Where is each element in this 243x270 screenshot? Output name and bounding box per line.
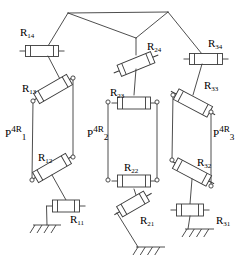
joint-label-R31: R31: [216, 215, 230, 228]
joint-label-R12: R12: [38, 152, 52, 165]
leg3-base-connector: [190, 179, 192, 204]
leg3-parallelogram-joint-3: [209, 184, 213, 188]
leg2-ground-link: [117, 213, 138, 247]
leg3-base-revolute-joint: [171, 204, 210, 216]
joint-label-R23: R23: [110, 87, 124, 100]
joint-label-R32: R32: [197, 157, 211, 170]
leg1-ground-symbol: [30, 225, 61, 233]
joint-label-R22: R22: [124, 162, 138, 175]
leg2-lower-coupler-joint: [112, 175, 157, 187]
ground-hatch: [140, 247, 145, 255]
leg1-base-connector: [52, 175, 66, 200]
leg3-parallelogram-joint-1: [171, 93, 175, 97]
leg3-platform-link: [168, 12, 202, 54]
joint-body: [34, 74, 73, 103]
joint-body: [177, 204, 204, 216]
joint-label-R33: R33: [204, 80, 218, 93]
ground-hatch: [51, 225, 56, 233]
platform-right-edge: [136, 12, 168, 38]
ground-hatch: [189, 229, 194, 237]
leg1-platform-link: [48, 13, 68, 46]
joint-label-R11: R11: [70, 214, 84, 227]
ground-hatch: [30, 225, 35, 233]
joint-body: [173, 89, 212, 117]
leg-label-P2: P4R2: [87, 125, 108, 142]
leg1-parallelogram-joint-4: [30, 178, 34, 182]
joint-label-R34: R34: [208, 38, 222, 51]
leg1-parallelogram-joint-1: [31, 99, 35, 103]
leg1-ground-link: [47, 206, 48, 225]
leg1-top-revolute-joint: [20, 46, 65, 57]
leg3-ground-link: [188, 216, 190, 229]
mechanism-diagram: R14 R13 R12 R11 R24 R23 R22 R21 R34 R33 …: [0, 0, 243, 270]
leg2-parallelogram-joint-2: [155, 100, 159, 104]
ground-hatch: [148, 247, 153, 255]
leg1-upper-connector: [48, 56, 61, 81]
leg-label-P1: P4R1: [5, 125, 26, 142]
ground-hatch: [182, 229, 187, 237]
joint-label-R14: R14: [20, 27, 34, 40]
ground-hatch: [204, 229, 209, 237]
ground-hatch: [37, 225, 42, 233]
leg3-upper-connector: [193, 64, 202, 95]
leg3-ground-symbol: [182, 229, 214, 237]
leg3-parallelogram-joint-4: [170, 158, 174, 162]
joint-label-R24: R24: [147, 41, 161, 54]
platform-top-edge: [68, 12, 168, 13]
leg2-parallelogram-joint-4: [106, 178, 110, 182]
leg2-parallelogram-joint-1: [106, 100, 110, 104]
leg1-base-revolute-joint: [47, 200, 86, 212]
joint-label-R21: R21: [140, 215, 154, 228]
kinematic-diagram-canvas: [0, 0, 243, 270]
leg3-parallelogram-left-link: [172, 95, 173, 160]
leg2-upper-connector: [134, 69, 136, 95]
leg3-top-revolute-joint: [184, 54, 229, 65]
ground-hatch: [133, 247, 138, 255]
leg3-parallelogram-joint-2: [209, 110, 213, 114]
leg1-parallelogram-left-link: [32, 101, 33, 180]
ground-hatch: [197, 229, 202, 237]
leg1-parallelogram-joint-2: [71, 76, 75, 80]
leg1-parallelogram-joint-3: [71, 155, 75, 159]
joint-label-R13: R13: [22, 83, 36, 96]
leg2-ground-symbol: [133, 247, 165, 255]
joint-body: [53, 200, 80, 212]
platform-left-edge: [68, 13, 136, 38]
leg-label-P3: P4R3: [213, 125, 234, 142]
ground-hatch: [155, 247, 160, 255]
leg2-parallelogram-joint-3: [155, 178, 159, 182]
ground-hatch: [44, 225, 49, 233]
